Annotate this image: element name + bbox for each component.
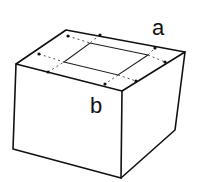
front-face (13, 64, 122, 178)
label-b: b (90, 95, 102, 117)
fold-dots (37, 33, 166, 85)
inner-square (64, 43, 148, 75)
label-a: a (152, 17, 164, 39)
box-diagram (0, 0, 201, 182)
